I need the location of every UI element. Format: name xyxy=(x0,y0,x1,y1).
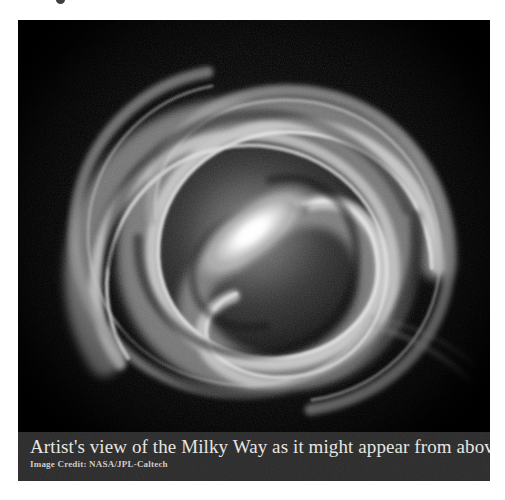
galaxy-illustration xyxy=(18,20,490,432)
scan-artifact xyxy=(56,0,65,4)
edge-vignette xyxy=(18,20,490,432)
figure-panel: Artist's view of the Milky Way as it mig… xyxy=(18,20,490,481)
caption-credit: Image Credit: NASA/JPL-Caltech xyxy=(30,459,490,470)
caption-title: Artist's view of the Milky Way as it mig… xyxy=(30,436,490,458)
figure-caption-bar: Artist's view of the Milky Way as it mig… xyxy=(18,432,490,481)
galaxy-image xyxy=(18,20,490,432)
